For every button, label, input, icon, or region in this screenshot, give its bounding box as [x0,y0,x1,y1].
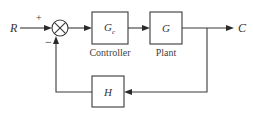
controller-symbol: G [104,21,112,33]
controller-to-plant-arrow [128,25,150,31]
input-arrow [20,25,52,31]
feedback-path [53,28,207,95]
feedback-block: H [92,76,124,107]
minus-sign: − [45,35,52,49]
junction-to-controller-arrow [68,25,92,31]
plant-symbol: G [162,22,170,34]
plus-sign: + [36,12,42,23]
output-label-c: C [238,21,247,35]
plant-caption: Plant [156,47,177,58]
block-diagram: R + − G c Controller G Plant C [0,0,253,117]
summing-junction [52,20,68,36]
feedback-symbol: H [103,86,113,98]
output-arrow [182,25,234,31]
plant-block: G [150,12,182,44]
input-label-r: R [9,21,18,35]
controller-block: G c [92,12,128,44]
controller-caption: Controller [89,47,131,58]
